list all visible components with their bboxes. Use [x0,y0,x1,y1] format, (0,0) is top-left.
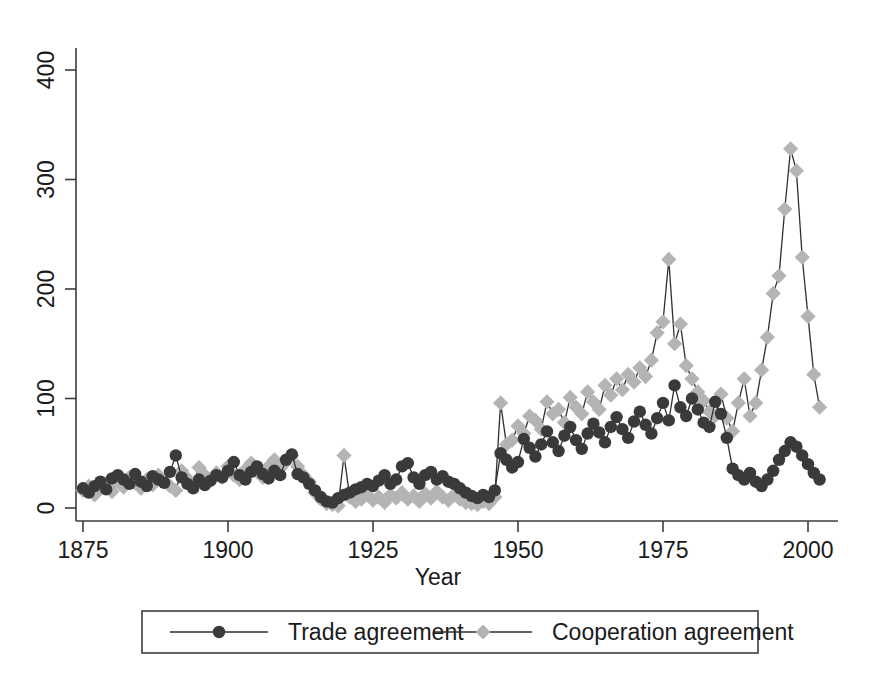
x-tick-label: 1900 [202,537,253,563]
data-point-marker [390,473,402,485]
data-point-marker [766,286,781,301]
axes-group [65,48,838,532]
data-point-marker [599,436,611,448]
y-tick-label: 0 [33,502,59,515]
data-point-marker [667,336,682,351]
data-point-marker [715,408,727,420]
data-point-marker [709,396,721,408]
data-point-marker [476,625,491,640]
data-point-marker [760,330,775,345]
data-point-marker [679,358,694,373]
data-point-marker [737,371,752,386]
y-tick-label: 300 [33,160,59,198]
x-tick-label: 1875 [57,537,108,563]
data-point-marker [812,400,827,415]
data-point-marker [535,438,547,450]
data-point-marker [644,353,659,368]
data-point-marker [813,473,825,485]
data-point-marker [645,427,657,439]
data-point-marker [529,450,541,462]
data-point-marker [274,469,286,481]
data-point-marker [228,456,240,468]
data-point-marker [789,163,804,178]
data-point-marker [783,141,798,156]
data-point-marker [610,411,622,423]
data-point-marker [576,443,588,455]
data-point-marker [564,421,576,433]
data-point-marker [795,250,810,265]
data-point-marker [100,483,112,495]
data-point-marker [541,425,553,437]
series-cooperation [75,141,827,513]
data-point-marker [800,309,815,324]
data-point-marker [657,397,669,409]
data-point-marker [806,367,821,382]
data-point-marker [673,316,688,331]
data-point-marker [703,421,715,433]
chart-legend: Trade agreementCooperation agreement [142,611,794,653]
x-axis-ticks [83,521,808,532]
x-tick-label: 1950 [492,537,543,563]
data-point-marker [651,412,663,424]
data-point-marker [692,403,704,415]
data-point-marker [771,268,786,283]
data-point-marker [777,201,792,216]
chart-figure: 0100200300400 187519001925195019752000 Y… [0,0,877,684]
data-point-marker [213,626,225,638]
data-point-marker [336,448,351,463]
x-axis-tick-labels: 187519001925195019752000 [57,537,833,563]
data-point-marker [663,414,675,426]
y-tick-label: 200 [33,270,59,308]
legend-label-cooperation: Cooperation agreement [552,619,794,645]
data-point-marker [170,449,182,461]
x-tick-label: 1925 [347,537,398,563]
y-tick-label: 100 [33,379,59,417]
line-chart: 0100200300400 187519001925195019752000 Y… [0,0,877,684]
data-point-marker [489,484,501,496]
x-tick-label: 2000 [782,537,833,563]
data-point-marker [721,432,733,444]
data-point-marker [767,465,779,477]
y-axis-tick-labels: 0100200300400 [33,51,59,515]
data-series-layer [75,141,827,513]
data-point-marker [680,410,692,422]
data-point-marker [748,395,763,410]
x-axis-title: Year [415,564,462,590]
y-axis-ticks [65,70,76,508]
data-point-marker [552,445,564,457]
data-point-marker [731,395,746,410]
x-tick-label: 1975 [637,537,688,563]
data-point-marker [622,432,634,444]
legend-items: Trade agreementCooperation agreement [170,619,794,645]
data-point-marker [402,457,414,469]
data-point-marker [668,379,680,391]
data-point-marker [158,477,170,489]
data-point-marker [742,408,757,423]
y-tick-label: 400 [33,51,59,89]
series-trade [77,379,826,509]
data-point-marker [164,466,176,478]
series-line [83,149,820,506]
data-point-marker [754,362,769,377]
data-point-marker [686,392,698,404]
data-point-marker [286,448,298,460]
data-point-marker [661,252,676,267]
data-point-marker [634,405,646,417]
data-point-marker [512,456,524,468]
data-point-marker [684,371,699,386]
data-point-marker [493,395,508,410]
